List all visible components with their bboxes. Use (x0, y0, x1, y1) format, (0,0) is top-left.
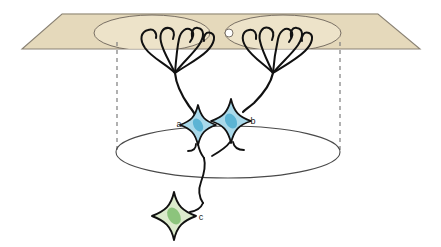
axon-b-stub (233, 142, 244, 150)
label-c: c (199, 212, 204, 222)
receptive-field-overlap-node (225, 29, 233, 37)
cortical-surface-plane (22, 14, 420, 49)
apical-trunk-right (243, 73, 273, 112)
axon-terminal-to-c (190, 203, 203, 212)
neuron-soma-a (180, 105, 216, 145)
neuron-soma-b (211, 99, 251, 143)
axon-descending (199, 158, 205, 203)
axon-b (212, 142, 230, 156)
apical-trunk-left (175, 73, 196, 117)
label-b: b (250, 116, 255, 126)
axon-a (198, 144, 204, 158)
plane-polygon (22, 14, 420, 49)
label-a: a (176, 119, 181, 129)
receptive-field-right (225, 15, 341, 51)
diagram-canvas: a b c (0, 0, 441, 247)
neuron-projection-diagram: a b c (0, 0, 441, 247)
neuron-soma-c (152, 192, 196, 240)
axon-a-stub (188, 144, 196, 151)
